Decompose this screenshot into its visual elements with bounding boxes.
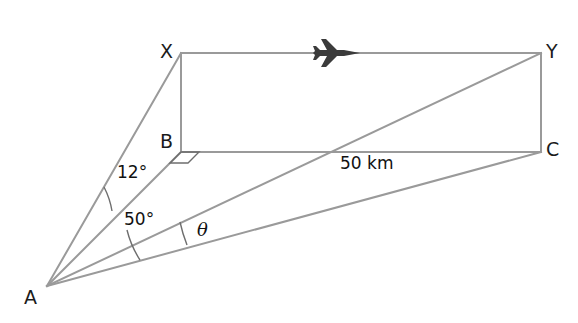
geometry-diagram: X Y B C A 12° 50° θ 50 km	[0, 0, 578, 323]
vertex-label-C: C	[546, 140, 559, 159]
vertex-label-X: X	[160, 42, 173, 61]
diagram-canvas	[0, 0, 578, 323]
angle-arc-theta	[180, 222, 187, 245]
angle-label-50: 50°	[124, 211, 154, 228]
vertex-label-Y: Y	[546, 42, 558, 61]
airplane-icon	[313, 39, 360, 67]
vertex-label-A: A	[24, 288, 37, 307]
angle-label-12: 12°	[117, 164, 147, 181]
angle-arc-12	[104, 187, 112, 211]
edge-A-B	[47, 152, 181, 286]
vertex-label-B: B	[160, 132, 173, 151]
edge-A-X	[47, 53, 181, 286]
angle-label-theta: θ	[197, 221, 208, 239]
distance-label-50km: 50 km	[340, 155, 393, 172]
